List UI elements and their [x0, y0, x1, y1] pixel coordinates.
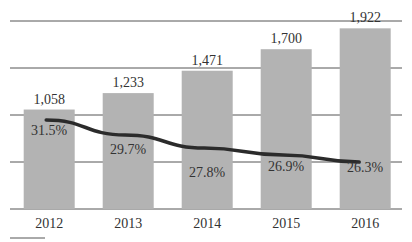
- x-axis-label: 2012: [35, 216, 63, 231]
- bar-2014: [182, 71, 233, 209]
- bar-value-label: 1,233: [112, 75, 144, 90]
- bar-value-label: 1,471: [191, 53, 223, 68]
- x-axis-labels: 20122013201420152016: [35, 216, 379, 231]
- percentage-label: 26.9%: [268, 159, 305, 174]
- bar-2015: [261, 49, 312, 209]
- percentage-label: 31.5%: [31, 123, 68, 138]
- bar-value-label: 1,058: [33, 92, 65, 107]
- x-axis-label: 2015: [272, 216, 300, 231]
- percentage-label: 27.8%: [189, 165, 226, 180]
- bar-2016: [340, 28, 391, 209]
- bar-value-label: 1,922: [349, 10, 381, 25]
- bar-value-label: 1,700: [270, 31, 302, 46]
- percentage-label: 26.3%: [347, 160, 384, 175]
- bar-line-chart: 1,0581,2331,4711,7001,922 31.5%29.7%27.8…: [0, 0, 412, 242]
- x-axis-label: 2013: [114, 216, 142, 231]
- percentage-label: 29.7%: [110, 142, 147, 157]
- x-axis-label: 2016: [351, 216, 379, 231]
- x-axis-label: 2014: [193, 216, 221, 231]
